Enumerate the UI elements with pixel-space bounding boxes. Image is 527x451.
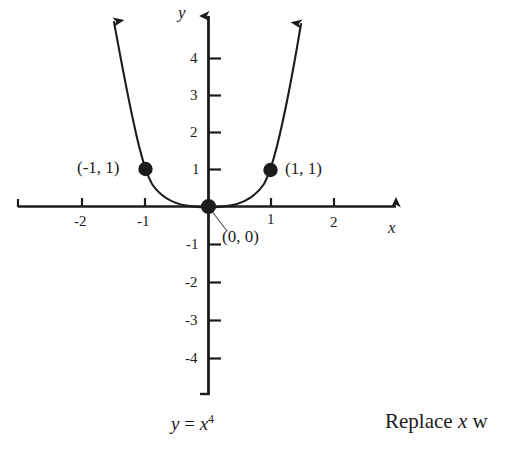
x-tick-label--1: -1 <box>137 214 150 229</box>
curve-right-branch <box>208 24 301 208</box>
point-label-origin: (0, 0) <box>222 228 259 245</box>
point-marker-neg1-1 <box>138 162 152 176</box>
body-text-after: w <box>467 409 487 433</box>
y-tick-label-4: 4 <box>190 51 198 66</box>
y-axis-label: y <box>178 4 186 21</box>
y-tick-label--1: -1 <box>186 237 199 252</box>
x-tick-label-1: 1 <box>267 212 275 227</box>
graph-figure: y x -2 -1 1 2 4 3 2 1 -1 -2 -3 -4 (-1, 1… <box>0 0 527 451</box>
x-tick-label--2: -2 <box>74 214 87 229</box>
x-tick-label-2: 2 <box>330 215 338 230</box>
x-axis-label: x <box>388 219 396 236</box>
point-marker-origin <box>201 199 216 214</box>
point-label-neg1-1: (-1, 1) <box>77 159 119 176</box>
body-text-variable: x <box>458 409 467 433</box>
body-text-before: Replace <box>385 409 458 433</box>
equation-operator: = <box>179 413 199 434</box>
y-tick-label-3: 3 <box>190 88 198 103</box>
y-tick-label-1: 1 <box>192 162 200 177</box>
y-tick-label--4: -4 <box>185 351 198 366</box>
body-text-fragment: Replace x w <box>385 411 488 432</box>
point-marker-1-1 <box>263 163 277 177</box>
y-tick-label-2: 2 <box>190 125 198 140</box>
y-tick-label--3: -3 <box>185 313 198 328</box>
point-label-1-1: (1, 1) <box>285 160 322 177</box>
equation-exponent: 4 <box>208 412 214 426</box>
equation-label: y = x4 <box>171 413 214 433</box>
equation-base: x <box>200 413 208 434</box>
y-tick-label--2: -2 <box>185 275 198 290</box>
